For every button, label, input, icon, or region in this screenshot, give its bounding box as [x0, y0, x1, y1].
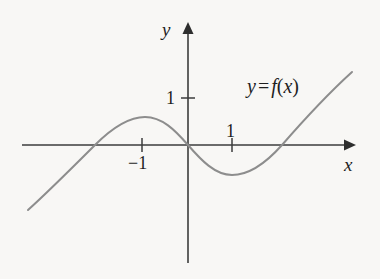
y-axis-arrowhead: [183, 22, 194, 34]
function-annotation: y=f(x): [247, 76, 299, 96]
y-tick-label-1: 1: [166, 89, 175, 107]
function-curve: [28, 72, 352, 210]
function-annotation-close-paren: ): [292, 75, 299, 97]
x-tick-label-minus-1: −1: [128, 154, 147, 172]
x-axis-arrowhead: [344, 140, 356, 151]
graph-figure: y x 1 1 −1 y=f(x): [0, 0, 380, 279]
function-annotation-equals: =: [256, 75, 271, 97]
y-axis: [183, 22, 194, 263]
y-axis-label: y: [162, 20, 170, 39]
x-axis-label: x: [344, 155, 352, 174]
x-tick-label-1: 1: [226, 122, 235, 140]
function-annotation-x: x: [283, 75, 292, 97]
function-annotation-y: y: [247, 75, 256, 97]
graph-canvas: [0, 0, 380, 279]
